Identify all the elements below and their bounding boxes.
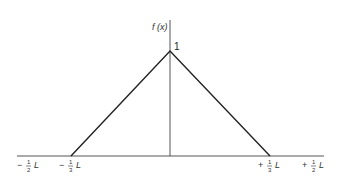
tick-label-neg-half: − 1 2 L — [17, 159, 39, 173]
svg-text:1: 1 — [268, 159, 272, 165]
svg-text:3: 3 — [268, 167, 272, 173]
svg-text:L: L — [275, 160, 280, 170]
svg-text:L: L — [34, 160, 39, 170]
y-axis-label: f (x) — [152, 22, 168, 32]
tick-label-neg-third: − 1 3 L — [59, 159, 81, 173]
svg-text:1: 1 — [69, 159, 73, 165]
svg-text:+: + — [258, 160, 263, 170]
svg-text:1: 1 — [312, 159, 316, 165]
svg-text:2: 2 — [27, 167, 31, 173]
tick-label-pos-half: + 1 2 L — [302, 159, 324, 173]
svg-text:L: L — [319, 160, 324, 170]
svg-text:2: 2 — [312, 167, 316, 173]
svg-text:1: 1 — [27, 159, 31, 165]
tick-label-pos-third: + 1 3 L — [258, 159, 280, 173]
svg-text:L: L — [76, 160, 81, 170]
svg-text:+: + — [302, 160, 307, 170]
triangle-function-diagram: f (x) 1 − 1 2 L − 1 3 L + 1 3 L + 1 2 L — [0, 0, 338, 177]
svg-text:−: − — [59, 160, 64, 170]
peak-label: 1 — [174, 41, 180, 52]
svg-text:−: − — [17, 160, 22, 170]
svg-text:3: 3 — [69, 167, 73, 173]
